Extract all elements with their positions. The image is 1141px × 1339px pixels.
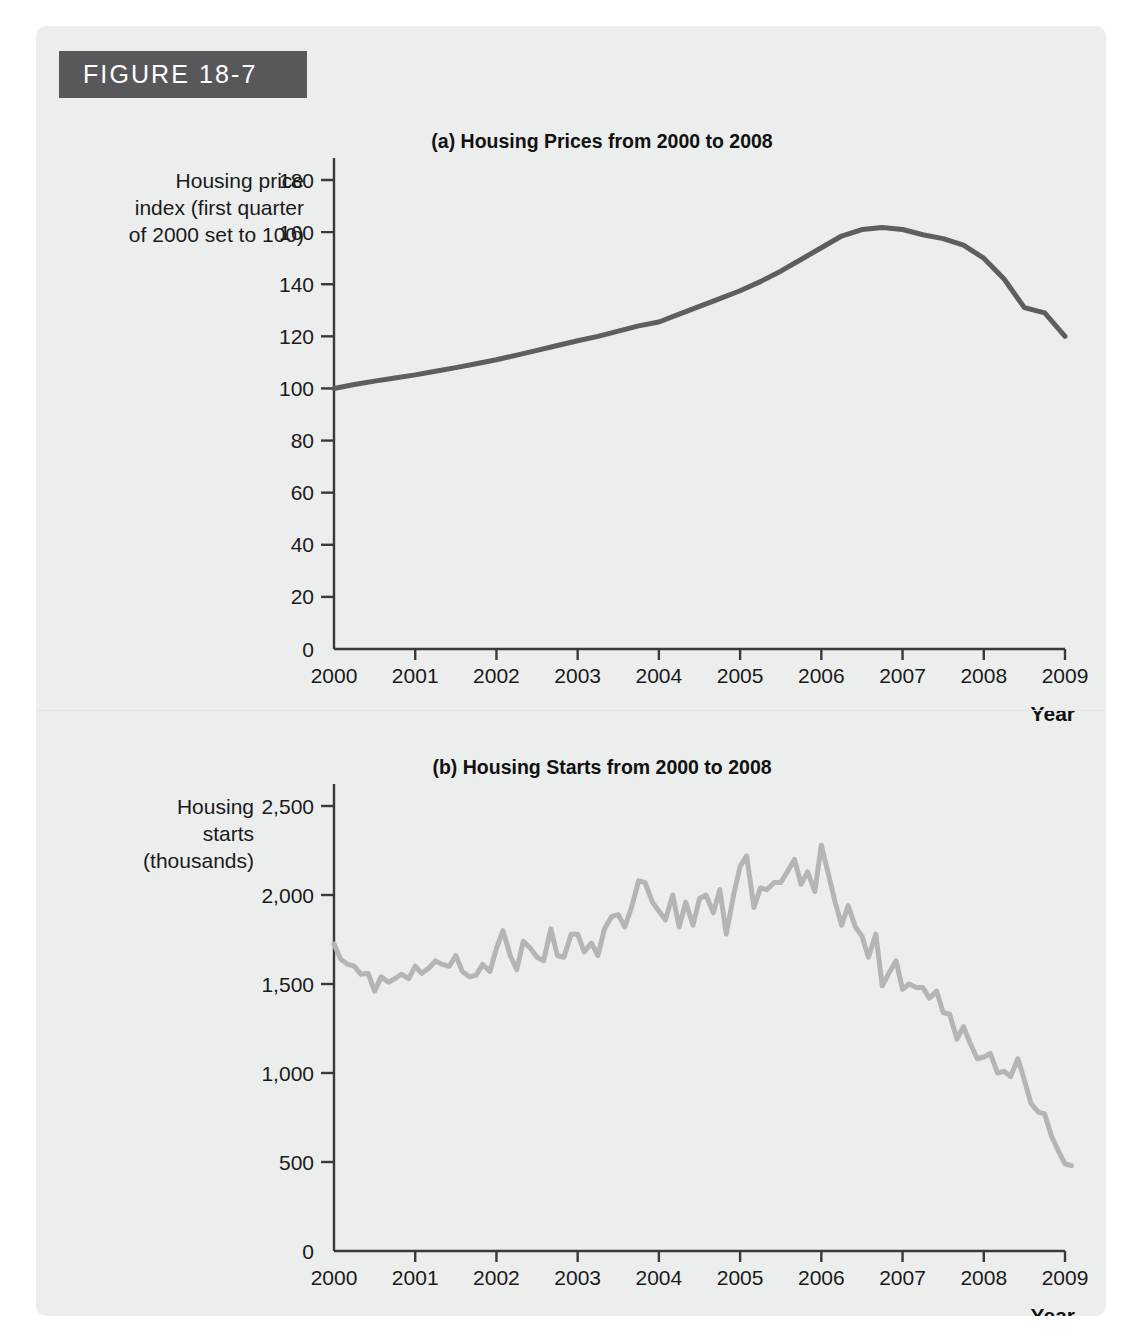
y-axis-label-line: of 2000 set to 100) [129,223,304,246]
figure-number-banner: FIGURE 18-7 [59,51,307,98]
x-tick-label: 2008 [960,1266,1007,1289]
y-tick-label: 80 [291,429,314,452]
y-axis-label-line: starts [203,822,254,845]
x-tick-label: 2002 [473,1266,520,1289]
x-tick-label: 2004 [636,1266,683,1289]
x-axis-caption: Year [1031,1304,1075,1316]
chart-b-title: (b) Housing Starts from 2000 to 2008 [36,756,1106,779]
x-tick-label: 2006 [798,1266,845,1289]
figure-number-label: FIGURE 18-7 [83,60,258,89]
data-series-line [334,227,1065,388]
y-axis-label-line: (thousands) [143,849,254,872]
x-tick-label: 2001 [392,1266,439,1289]
x-tick-label: 2000 [311,664,358,687]
chart-a-title: (a) Housing Prices from 2000 to 2008 [36,130,1106,153]
y-tick-label: 0 [302,1240,314,1263]
y-tick-label: 1,500 [261,973,314,996]
chart-b-plot: 05001,0001,5002,0002,5002000200120022003… [36,784,1106,1316]
x-tick-label: 2008 [960,664,1007,687]
y-tick-label: 60 [291,481,314,504]
x-tick-label: 2009 [1042,1266,1089,1289]
y-axis-label-line: index (first quarter [135,196,304,219]
y-tick-label: 100 [279,377,314,400]
y-tick-label: 120 [279,325,314,348]
y-tick-label: 500 [279,1151,314,1174]
figure-card: FIGURE 18-7 (a) Housing Prices from 2000… [36,26,1106,1316]
y-tick-label: 2,500 [261,795,314,818]
x-axis-caption: Year [1031,702,1075,725]
x-tick-label: 2005 [717,664,764,687]
y-tick-label: 40 [291,533,314,556]
x-tick-label: 2006 [798,664,845,687]
y-axis-label-line: Housing [177,795,254,818]
y-tick-label: 20 [291,585,314,608]
x-tick-label: 2007 [879,1266,926,1289]
x-tick-label: 2003 [554,664,601,687]
chart-a-plot: 0204060801001201401601802000200120022003… [36,158,1106,738]
data-series-line [334,845,1072,1165]
y-tick-label: 2,000 [261,884,314,907]
y-axis-label-line: Housing price [176,169,304,192]
x-tick-label: 2000 [311,1266,358,1289]
x-tick-label: 2007 [879,664,926,687]
x-tick-label: 2009 [1042,664,1089,687]
x-tick-label: 2001 [392,664,439,687]
y-tick-label: 1,000 [261,1062,314,1085]
x-tick-label: 2005 [717,1266,764,1289]
x-tick-label: 2003 [554,1266,601,1289]
y-tick-label: 140 [279,273,314,296]
y-tick-label: 0 [302,638,314,661]
x-tick-label: 2004 [636,664,683,687]
x-tick-label: 2002 [473,664,520,687]
